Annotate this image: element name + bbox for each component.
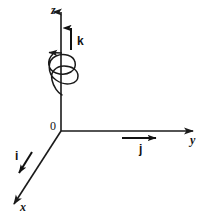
axis-label-x: x — [20, 201, 26, 213]
rotation-helix-icon — [49, 55, 78, 96]
axis-label-z: z — [51, 4, 56, 16]
rotation-arrowhead-icon — [49, 53, 62, 54]
axis-line-x — [14, 131, 61, 204]
unit-vector-label-j: j — [139, 143, 142, 155]
axis-label-y: y — [190, 134, 195, 146]
origin-label: 0 — [50, 120, 56, 132]
unit-vector-label-k: k — [77, 35, 84, 47]
unit-vector-label-i: i — [15, 150, 18, 162]
unit-vector-i-arrow — [19, 152, 32, 173]
figure-canvas — [0, 0, 204, 219]
coordinate-axes-figure: z y x k j i 0 — [0, 0, 204, 219]
